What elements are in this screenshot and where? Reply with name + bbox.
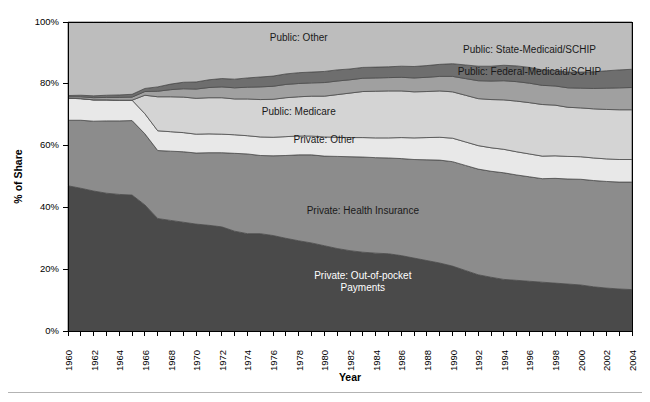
band-label-5: Public: State-Medicaid/SCHIP <box>463 44 596 55</box>
x-tick-label: 1986 <box>396 350 407 371</box>
band-label-3: Public: Medicare <box>262 106 336 117</box>
y-tick-label: 100% <box>35 16 60 27</box>
y-tick-label: 60% <box>40 139 60 150</box>
y-tick-label: 40% <box>40 201 60 212</box>
x-tick-label: 1972 <box>217 350 228 371</box>
y-tick-label: 20% <box>40 263 60 274</box>
x-tick-label: 1982 <box>345 350 356 371</box>
x-axis-ticks <box>68 331 632 336</box>
x-tick-label: 1968 <box>166 350 177 371</box>
x-tick-label: 1998 <box>550 350 561 371</box>
y-axis-tick-labels: 0%20%40%60%80%100% <box>35 16 60 336</box>
x-tick-label: 1990 <box>448 350 459 371</box>
x-tick-label: 1960 <box>63 350 74 371</box>
x-tick-label: 1970 <box>191 350 202 371</box>
band-label-0: Private: Out-of-pocket <box>314 270 411 281</box>
x-tick-label: 1988 <box>422 350 433 371</box>
chart-figure: 0%20%40%60%80%100% 196019621964196619681… <box>0 0 650 402</box>
x-tick-label: 1992 <box>473 350 484 371</box>
x-tick-label: 2000 <box>576 350 587 371</box>
x-tick-label: 1984 <box>371 350 382 371</box>
x-tick-label: 1996 <box>524 350 535 371</box>
x-tick-label: 2004 <box>627 350 638 371</box>
x-axis-tick-labels: 1960196219641966196819701972197419761978… <box>63 350 638 371</box>
y-tick-label: 0% <box>45 325 59 336</box>
band-label-2: Private: Other <box>294 134 356 145</box>
y-axis-ticks <box>63 22 68 331</box>
x-tick-label: 2002 <box>601 350 612 371</box>
band-label-4: Public: Federal-Medicaid/SCHIP <box>458 66 602 77</box>
x-tick-label: 1994 <box>499 350 510 371</box>
x-tick-label: 1980 <box>319 350 330 371</box>
x-tick-label: 1964 <box>114 350 125 371</box>
x-tick-label: 1966 <box>140 350 151 371</box>
band-label-0: Payments <box>341 282 385 293</box>
x-tick-label: 1978 <box>294 350 305 371</box>
stacked-area-chart: 0%20%40%60%80%100% 196019621964196619681… <box>0 0 650 402</box>
x-tick-label: 1962 <box>89 350 100 371</box>
band-label-1: Private: Health Insurance <box>307 205 420 216</box>
footer-divider <box>8 392 642 393</box>
x-tick-label: 1976 <box>268 350 279 371</box>
y-tick-label: 80% <box>40 77 60 88</box>
x-axis-title: Year <box>339 371 361 383</box>
y-axis-title: % of Share <box>12 149 24 203</box>
x-tick-label: 1974 <box>242 350 253 371</box>
band-label-6: Public: Other <box>270 32 328 43</box>
